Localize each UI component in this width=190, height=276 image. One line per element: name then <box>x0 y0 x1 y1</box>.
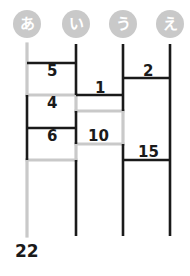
head-circle-a[interactable]: あ <box>13 10 41 38</box>
rung-label-5: 5 <box>47 64 57 79</box>
head-circle-a-label: あ <box>20 15 35 33</box>
head-circle-i[interactable]: い <box>62 10 90 38</box>
rung-label-10: 10 <box>88 129 109 144</box>
head-circle-e-label: え <box>163 15 178 33</box>
head-circle-u-label: う <box>116 15 131 33</box>
rung-label-2: 2 <box>143 64 153 79</box>
result-total: 22 <box>15 243 39 260</box>
head-circle-e[interactable]: え <box>156 10 184 38</box>
head-circle-i-label: い <box>69 15 84 33</box>
rung-label-4: 4 <box>47 96 57 111</box>
amidakuji-diagram: あ い う え 5 2 1 4 10 15 6 22 <box>0 0 190 276</box>
rung-label-6: 6 <box>47 129 57 144</box>
rung-label-1: 1 <box>95 81 105 96</box>
rung-label-15: 15 <box>138 145 159 160</box>
head-circle-u[interactable]: う <box>109 10 137 38</box>
